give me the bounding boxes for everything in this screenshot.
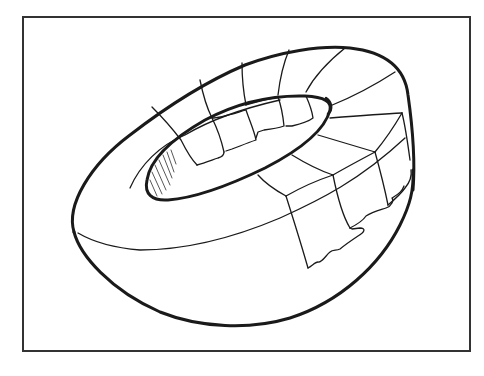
outer-latitude-line: [78, 138, 405, 250]
meridian-line: [330, 72, 395, 106]
torn-patch-edge: [308, 228, 364, 268]
figure-canvas: Line drawing of a hollowed half-sphere (…: [0, 0, 484, 376]
outer-rim: [72, 47, 413, 232]
meridian-line: [318, 135, 375, 152]
meridian-line: [242, 63, 246, 105]
bowl-illustration: [0, 0, 484, 376]
hole-shading-hatch: [150, 150, 176, 196]
meridian-line: [278, 50, 289, 95]
meridian-line: [330, 113, 402, 118]
meridian-line: [258, 175, 286, 196]
meridian-line: [286, 175, 333, 196]
torn-patch-edge: [350, 186, 404, 228]
torn-patch-edge: [388, 170, 411, 205]
meridian-line: [375, 113, 402, 152]
meridian-line: [333, 152, 375, 175]
torn-patch-edge: [212, 110, 256, 151]
torn-patch-edge: [197, 152, 224, 165]
meridian-line: [402, 113, 410, 160]
meridian-line: [306, 48, 345, 92]
figure-frame: [23, 17, 470, 351]
meridian-line: [375, 152, 388, 205]
torn-patch-edge: [286, 96, 313, 126]
meridian-line: [292, 155, 333, 175]
